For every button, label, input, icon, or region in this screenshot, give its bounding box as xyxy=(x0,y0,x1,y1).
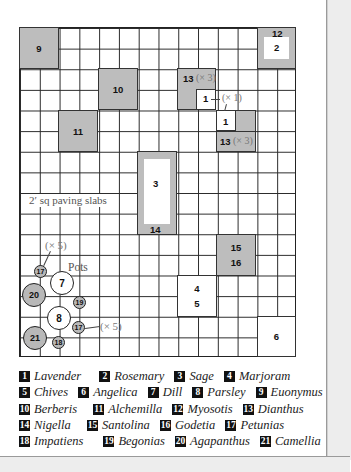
bed-label-2: 2 xyxy=(274,43,279,53)
bed-label: 9 xyxy=(36,43,41,54)
legend-number-badge: 10 xyxy=(19,404,30,415)
legend-number-badge: 19 xyxy=(103,436,114,447)
legend-item: 17Petunias xyxy=(225,417,284,433)
legend-number-badge: 18 xyxy=(19,436,30,447)
bed-label-3: 3 xyxy=(153,179,158,189)
legend-plant-name: Godetia xyxy=(175,418,215,432)
legend-row: 18Impatiens 19Begonias 20Agapanthus 21Ca… xyxy=(19,433,319,449)
legend-row: 10Berberis 11Alchemilla 12Myosotis 13Dia… xyxy=(19,401,319,417)
legend-number-badge: 7 xyxy=(148,387,159,398)
legend-item: 6Angelica xyxy=(78,384,137,400)
legend-number-badge: 3 xyxy=(174,371,185,382)
legend-plant-name: Agapanthus xyxy=(190,434,250,448)
legend-plant-name: Santolina xyxy=(102,418,150,432)
legend-item: 15Santolina xyxy=(87,417,150,433)
bed-label-12: 12 xyxy=(272,29,283,39)
legend-plant-name: Angelica xyxy=(93,385,137,399)
legend-plant-name: Alchemilla xyxy=(108,402,162,416)
legend-plant-name: Myosotis xyxy=(187,402,232,416)
pot-label: 17 xyxy=(75,324,83,331)
pot-19-begonias: 19 xyxy=(73,296,86,309)
legend-plant-name: Parsley xyxy=(207,385,245,399)
quantity-note: (× 3) xyxy=(196,73,216,83)
legend-number-badge: 14 xyxy=(19,420,30,431)
pot-label: 17 xyxy=(37,268,45,275)
bed-label-5: 5 xyxy=(194,298,199,309)
legend-item: 9Euonymus xyxy=(256,384,323,400)
legend-item: 2Rosemary xyxy=(99,368,164,384)
bed-label-15: 15 xyxy=(231,242,242,253)
pot-20-agapanthus: 20 xyxy=(22,283,46,307)
pot-8-parsley: 8 xyxy=(47,306,71,330)
legend-item: 18Impatiens xyxy=(19,433,83,449)
pot-18-impatiens: 18 xyxy=(52,336,65,349)
legend-number-badge: 21 xyxy=(260,436,271,447)
legend-number-badge: 17 xyxy=(225,420,236,431)
legend-number-badge: 2 xyxy=(99,371,110,382)
legend-plant-name: Sage xyxy=(189,369,213,383)
pot-7-dill: 7 xyxy=(50,271,74,295)
bed-label: 11 xyxy=(73,126,83,137)
legend-item: 1Lavender xyxy=(19,368,81,384)
legend-number-badge: 1 xyxy=(19,371,30,382)
legend-number-badge: 6 xyxy=(78,387,89,398)
plant-key-legend: 1Lavender 2Rosemary 3Sage 4Marjoram 5Chi… xyxy=(19,368,319,449)
bed-10-berberis: 10 xyxy=(98,68,138,110)
legend-number-badge: 8 xyxy=(192,387,203,398)
legend-plant-name: Euonymus xyxy=(271,385,323,399)
bed-11-alchemilla: 11 xyxy=(58,110,98,152)
paving-slabs-label: 2′ sq paving slabs xyxy=(26,194,110,207)
legend-item: 19Begonias xyxy=(103,433,165,449)
legend-plant-name: Berberis xyxy=(34,402,77,416)
quantity-note: (× 3) xyxy=(233,136,253,146)
pot-label: 21 xyxy=(30,333,40,343)
legend-number-badge: 16 xyxy=(160,420,171,431)
pots-label: Pots xyxy=(68,262,88,274)
legend-item: 12Myosotis xyxy=(172,401,232,417)
legend-plant-name: Nigella xyxy=(34,418,71,432)
bed-label-1: 1 xyxy=(223,117,228,127)
legend-row: 14Nigella 15Santolina 16Godetia 17Petuni… xyxy=(19,417,319,433)
legend-number-badge: 4 xyxy=(224,371,235,382)
legend-plant-name: Lavender xyxy=(34,369,81,383)
pot-label: 19 xyxy=(76,299,84,306)
legend-item: 11Alchemilla xyxy=(93,401,162,417)
bed-6-angelica: 6 xyxy=(257,316,296,357)
legend-number-badge: 15 xyxy=(87,420,98,431)
bed-label-1: 1 xyxy=(203,94,208,104)
bed-9-euonymus: 9 xyxy=(19,27,59,69)
pot-label: 8 xyxy=(56,313,62,324)
legend-item: 20Agapanthus xyxy=(175,433,250,449)
legend-item: 5Chives xyxy=(19,384,68,400)
legend-item: 4Marjoram xyxy=(224,368,290,384)
scrollbar-track[interactable] xyxy=(327,0,351,460)
legend-plant-name: Chives xyxy=(34,385,68,399)
legend-plant-name: Dianthus xyxy=(258,402,304,416)
bed-label-16: 16 xyxy=(231,257,242,268)
legend-row: 5Chives 6Angelica 7Dill 8Parsley 9Euonym… xyxy=(19,384,319,400)
bed-15-16-santolina-godetia: 15 16 xyxy=(216,234,256,276)
pot-17-petunias: 17 xyxy=(34,265,47,278)
bed-label-6: 6 xyxy=(274,331,279,342)
legend-item: 13Dianthus xyxy=(243,401,304,417)
bed-label: 10 xyxy=(113,84,124,95)
legend-plant-name: Impatiens xyxy=(34,434,83,448)
bed-13-dianthus-bottom-ext xyxy=(236,110,256,132)
legend-number-badge: 5 xyxy=(19,387,30,398)
bed-14-nigella: 3 14 xyxy=(137,151,177,235)
legend-item: 21Camellia xyxy=(260,433,321,449)
legend-item: 3Sage xyxy=(174,368,213,384)
legend-item: 14Nigella xyxy=(19,417,71,433)
legend-plant-name: Begonias xyxy=(118,434,165,448)
bed-label-13-top: 13 xyxy=(183,74,194,84)
leader-line xyxy=(211,99,220,100)
legend-number-badge: 11 xyxy=(93,404,104,415)
legend-item: 8Parsley xyxy=(192,384,245,400)
legend-item: 10Berberis xyxy=(19,401,77,417)
legend-number-badge: 13 xyxy=(243,404,254,415)
legend-plant-name: Marjoram xyxy=(239,369,290,383)
legend-plant-name: Dill xyxy=(163,385,182,399)
pot-label: 20 xyxy=(29,290,39,300)
bed-4-5-marjoram-chives: 4 5 xyxy=(177,275,217,317)
legend-item: 16Godetia xyxy=(160,417,215,433)
